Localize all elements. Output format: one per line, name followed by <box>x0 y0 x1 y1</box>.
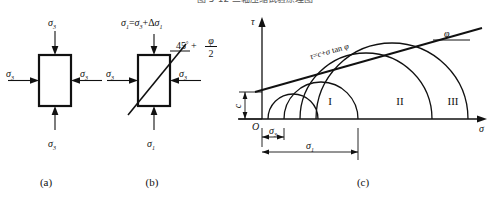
panel-c-tau-axis-arrow <box>258 17 265 27</box>
panel-b-angle-value: 45° + <box>176 40 197 51</box>
panel-c-sigma-axis-label: σ <box>479 123 485 134</box>
panel-a-bottom-arrow-head <box>52 106 59 115</box>
panel-c-mohr-circle-II <box>300 53 432 119</box>
panel-b-left-label: σ3 <box>106 68 114 81</box>
panel-a-top-arrow-head <box>52 46 59 55</box>
panel-b-angle-phi: φ <box>208 35 214 46</box>
panel-b-right-label: σ3 <box>179 68 187 81</box>
panel-b: σ1=σ3+Δσ1 σ1 σ3 σ3 45° + φ 2 (b) <box>106 17 217 189</box>
panel-a-specimen-rect <box>39 55 71 106</box>
panel-b-bottom-arrow-head <box>151 106 158 115</box>
panel-c-cohesion-arrow-up <box>243 92 248 99</box>
panel-c-circle-label-III: III <box>448 95 459 107</box>
panel-b-top-arrow-head <box>151 46 158 55</box>
panel-c-mohr-circle-III <box>316 43 468 119</box>
panel-c-origin-label: O <box>252 121 259 132</box>
panel-a-right-arrow-head <box>71 77 80 84</box>
panel-c-cohesion-label: c <box>232 103 243 108</box>
figure-root: 图 5-12 三轴压缩试验原理图 σ3 σ3 σ3 σ3 (a) <box>0 0 498 199</box>
panel-c-cohesion-arrow-down <box>243 112 248 119</box>
panel-c-sigma3-arrow-left <box>262 135 269 140</box>
panel-a-bottom-label: σ3 <box>48 138 56 151</box>
panel-b-top-label: σ1=σ3+Δσ1 <box>121 17 163 30</box>
panel-a-right-label: σ3 <box>80 68 88 81</box>
panel-b-right-arrow-head <box>170 77 179 84</box>
panel-c-tau-axis-label: τ <box>251 16 255 27</box>
panel-c: τ σ O φ τ=c+σ tan φ I II III <box>232 16 487 189</box>
panel-c-sigma-axis-arrow <box>477 115 487 122</box>
panel-b-specimen-rect <box>138 55 170 106</box>
panel-b-angle-denominator: 2 <box>209 48 214 59</box>
panel-c-circle-label-I: I <box>328 95 332 107</box>
panel-a-top-label: σ3 <box>48 17 56 30</box>
panel-c-caption: (c) <box>357 176 370 189</box>
panel-c-phi-label: φ <box>444 28 450 39</box>
panel-b-left-arrow-head <box>129 77 138 84</box>
panel-c-mohr-circle-I <box>284 82 358 119</box>
panel-c-sigma3-arrow-right <box>277 135 284 140</box>
panel-c-circle-label-II: II <box>396 95 404 107</box>
panel-c-mohr-circle-0 <box>268 94 318 119</box>
panel-c-sigma1-dimension-label: σ1 <box>306 140 314 153</box>
panel-b-caption: (b) <box>146 176 159 189</box>
panel-a-left-label: σ3 <box>6 68 14 81</box>
panel-c-envelope-equation: τ=c+σ tan φ <box>309 41 350 62</box>
panel-c-sigma1-arrow-right <box>351 150 358 155</box>
panel-a-caption: (a) <box>40 176 53 189</box>
panel-a-left-arrow-head <box>30 77 39 84</box>
panel-a: σ3 σ3 σ3 σ3 (a) <box>6 17 102 189</box>
panel-c-sigma1-arrow-left <box>262 150 269 155</box>
panel-c-sigma3-dimension-label: σ3 <box>269 125 277 138</box>
panel-b-bottom-label: σ1 <box>147 138 155 151</box>
diagram-canvas: σ3 σ3 σ3 σ3 (a) <box>0 0 498 199</box>
